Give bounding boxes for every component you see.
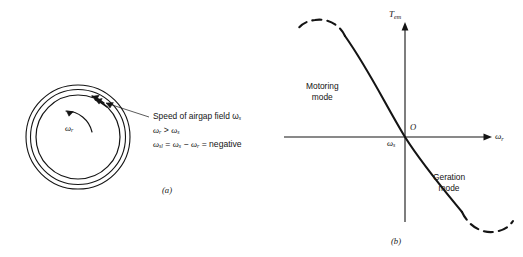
sync-speed-label: ωs	[387, 139, 395, 149]
rotor-speed-arrowhead	[67, 111, 74, 116]
motoring-mode-label: Motoring mode	[306, 81, 339, 102]
y-axis-label: Tem	[389, 9, 401, 21]
x-axis-arrowhead	[484, 134, 493, 141]
torque-curve-dashed-upper	[296, 20, 345, 36]
panel-a-label: (a)	[162, 186, 172, 196]
panel-a-machine-cross-section	[26, 85, 130, 189]
rotor-circle	[36, 95, 120, 179]
generation-mode-label: Geration mode	[433, 172, 465, 193]
origin-label: O	[410, 123, 416, 133]
rotor-speed-symbol: ωr	[65, 124, 73, 134]
airgap-leader-line	[106, 103, 149, 117]
torque-curve-dashed-lower	[462, 212, 513, 232]
airgap-field-arrow	[92, 95, 107, 107]
figure-svg	[0, 0, 523, 257]
y-axis-arrowhead	[402, 22, 409, 31]
stator-outer-circle	[26, 85, 130, 189]
slip-speed-annotation: ωsl = ωs − ωr = negative	[153, 140, 242, 150]
speed-inequality-annotation: ωr > ωs	[153, 126, 180, 136]
x-axis-label: ωr	[495, 131, 504, 143]
airgap-speed-annotation: Speed of airgap field ωs	[153, 112, 241, 122]
figure-container: ωr Speed of airgap field ωs ωr > ωs ωsl …	[0, 0, 523, 257]
panel-b-label: (b)	[391, 237, 401, 247]
